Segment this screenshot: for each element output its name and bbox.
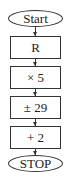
step-input: R (10, 36, 61, 59)
step-multiply: × 5 (10, 66, 61, 89)
step-plus-minus: ± 29 (10, 96, 61, 119)
step-add: + 2 (10, 126, 61, 149)
arrow-down-icon (35, 27, 36, 36)
start-terminal: Start (8, 10, 63, 27)
arrow-down-icon (35, 119, 36, 126)
arrow-down-icon (35, 89, 36, 96)
arrow-down-icon (35, 59, 36, 66)
stop-terminal: STOP (8, 155, 63, 172)
